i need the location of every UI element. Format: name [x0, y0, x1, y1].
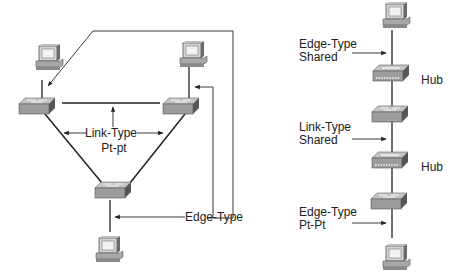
- pc-bottom-icon: [96, 236, 123, 262]
- hub-lower-label: Hub: [421, 160, 443, 174]
- pc-top-left-icon: [36, 44, 63, 70]
- edge-ptpt-sublabel: Pt-Pt: [299, 218, 326, 232]
- pc-top-icon: [383, 2, 410, 28]
- switch-top-left-icon: [19, 98, 55, 114]
- switch-top-right-icon: [163, 98, 199, 114]
- link-shared-sublabel: Shared: [299, 133, 338, 147]
- switch-bottom-icon: [95, 182, 131, 198]
- link-shared-label: Link-Type: [299, 120, 351, 134]
- pc-bottom-icon: [383, 244, 410, 270]
- edge-shared-sublabel: Shared: [299, 50, 338, 64]
- edge-type-label: Edge-Type: [185, 210, 243, 224]
- trunk-link-right: [130, 114, 185, 183]
- link-type-label: Link-Type: [85, 126, 137, 140]
- switch-lower-icon: [371, 193, 407, 209]
- network-diagram: Edge-Type Link-Type Pt-pt Hub Hub Edge-T…: [0, 0, 455, 278]
- edge-ptpt-label: Edge-Type: [299, 205, 357, 219]
- hub-upper-icon: [373, 65, 409, 81]
- pc-top-right-icon: [180, 41, 207, 67]
- link-type-ptpt-label: Pt-pt: [101, 141, 127, 155]
- switch-middle-icon: [372, 106, 408, 122]
- edge-shared-label: Edge-Type: [299, 37, 357, 51]
- left-diagram: Edge-Type Link-Type Pt-pt: [19, 31, 243, 262]
- right-diagram: Hub Hub Edge-Type Shared Link-Type Share…: [299, 2, 443, 270]
- hub-lower-icon: [372, 152, 408, 168]
- trunk-link-left: [45, 114, 102, 183]
- hub-upper-label: Hub: [421, 73, 443, 87]
